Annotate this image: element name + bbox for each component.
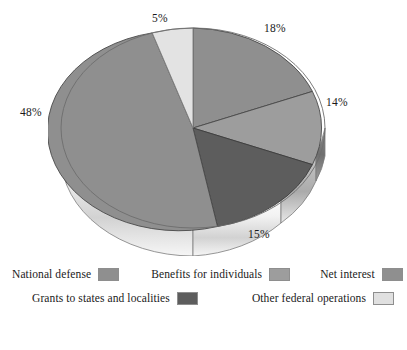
- legend-label: Other federal operations: [252, 292, 366, 304]
- legend-label: Net interest: [320, 268, 375, 280]
- legend-swatch-icon: [98, 268, 119, 281]
- legend-item-national-defense: National defense: [12, 268, 119, 281]
- legend-label: National defense: [12, 268, 91, 280]
- pie-label-net-interest: 48%: [20, 106, 42, 118]
- pie-top-face: [48, 28, 322, 231]
- legend-swatch-icon: [373, 292, 394, 305]
- legend-item-benefits-for-individuals: Benefits for individuals: [151, 268, 290, 281]
- pie-label-benefits-for-individuals: 14%: [326, 96, 348, 108]
- chart-legend: National defense Benefits for individual…: [0, 262, 400, 310]
- legend-label: Benefits for individuals: [151, 268, 262, 280]
- pie-label-other-federal-operations: 5%: [152, 12, 168, 24]
- legend-item-grants-to-states-and-localities: Grants to states and localities: [32, 292, 198, 305]
- legend-item-other-federal-operations: Other federal operations: [252, 292, 394, 305]
- pie-svg: [48, 8, 340, 256]
- legend-swatch-icon: [269, 268, 290, 281]
- legend-item-net-interest: Net interest: [320, 268, 403, 281]
- legend-swatch-icon: [177, 292, 198, 305]
- pie-graphic: [48, 8, 340, 256]
- legend-row: Grants to states and localities Other fe…: [0, 286, 407, 310]
- pie-label-grants-to-states-and-localities: 15%: [248, 228, 270, 240]
- figure-caption-clipped: [0, 0, 400, 3]
- pie-label-national-defense: 18%: [264, 22, 286, 34]
- legend-row: National defense Benefits for individual…: [0, 262, 407, 286]
- legend-swatch-icon: [382, 268, 403, 281]
- legend-label: Grants to states and localities: [32, 292, 170, 304]
